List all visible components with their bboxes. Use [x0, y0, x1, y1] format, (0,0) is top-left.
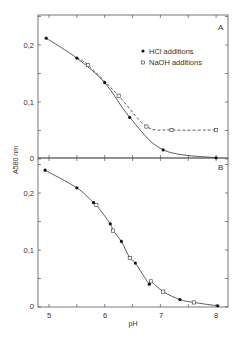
legend-open-square-icon: [142, 61, 145, 64]
xtick-5: 5: [47, 311, 51, 320]
ytick-a-0-2: 0,2: [24, 41, 34, 50]
ytick-a-0: 0: [30, 154, 34, 163]
xtick-6: 6: [103, 311, 107, 320]
panel-a-frame: [38, 15, 228, 158]
xtick-8: 8: [214, 311, 218, 320]
legend-naoh-label: NaOH additions: [149, 58, 202, 67]
panel-b-frame: [38, 158, 228, 307]
ytick-b-0: 0: [30, 302, 34, 311]
xtick-7: 7: [159, 311, 163, 320]
ytick-b-0-2: 0,2: [24, 189, 34, 198]
legend: HCl additions NaOH additions: [141, 47, 202, 67]
panel-a-label: A: [218, 23, 224, 32]
curves: [45, 38, 218, 306]
ph-absorbance-figure: A B HCl additions NaOH additions 0,2 0,1…: [0, 0, 241, 341]
y-axis-label: A580 nm: [12, 146, 19, 174]
legend-hcl-label: HCl additions: [149, 47, 194, 56]
ytick-b-0-1: 0,1: [24, 246, 34, 255]
data-markers: [44, 37, 220, 308]
legend-filled-circle-icon: [141, 49, 144, 52]
panel-b-label: B: [218, 163, 223, 172]
x-axis-label: pH: [129, 320, 138, 328]
ytick-a-0-1: 0,1: [24, 98, 34, 107]
